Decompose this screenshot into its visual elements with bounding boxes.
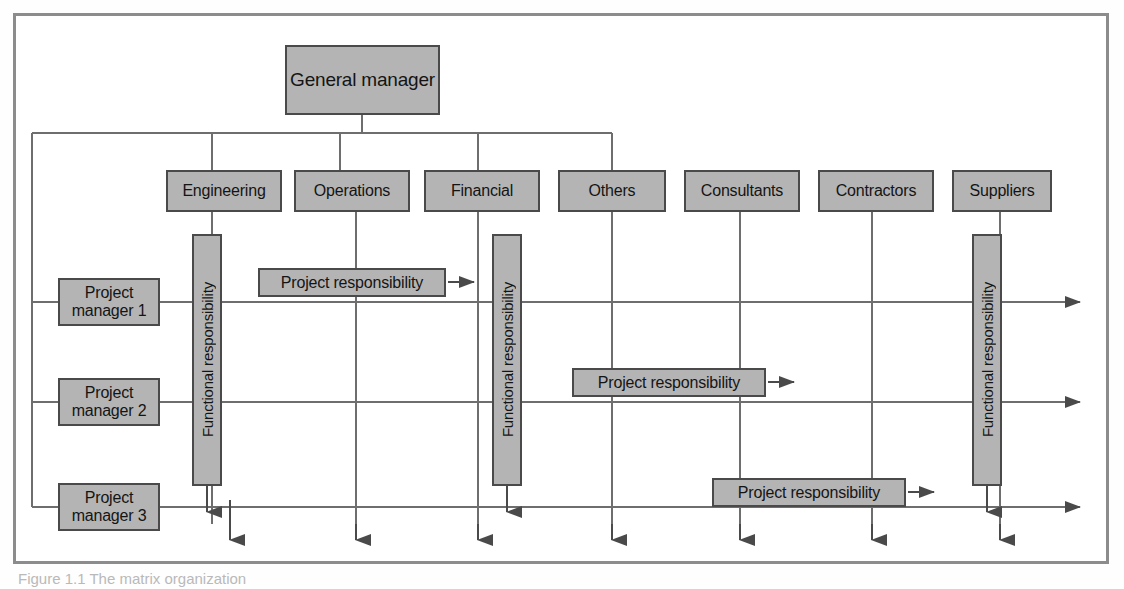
node-contractors-label: Contractors <box>836 182 917 200</box>
functional-responsibility-band-engineering[interactable]: Functional responsibility <box>192 234 222 486</box>
functional-responsibility-label-financial: Functional responsibility <box>499 282 516 437</box>
node-general-manager[interactable]: General manager <box>285 45 440 115</box>
functional-responsibility-band-financial[interactable]: Functional responsibility <box>492 234 522 486</box>
node-consultants-label: Consultants <box>701 182 783 200</box>
node-project-manager-1-line2: manager 1 <box>72 302 147 320</box>
node-contractors[interactable]: Contractors <box>818 170 934 212</box>
node-suppliers[interactable]: Suppliers <box>952 170 1052 212</box>
node-engineering[interactable]: Engineering <box>166 170 282 212</box>
node-consultants[interactable]: Consultants <box>684 170 800 212</box>
node-project-manager-3-line1: Project <box>85 489 133 507</box>
node-others[interactable]: Others <box>558 170 666 212</box>
project-responsibility-label-pm2: Project responsibility <box>598 374 740 392</box>
project-responsibility-label-pm1: Project responsibility <box>281 274 423 292</box>
figure-frame <box>13 13 1109 564</box>
node-project-manager-2-line2: manager 2 <box>72 402 147 420</box>
node-others-label: Others <box>589 182 636 200</box>
project-responsibility-band-pm3[interactable]: Project responsibility <box>712 478 906 507</box>
project-responsibility-label-pm3: Project responsibility <box>738 484 880 502</box>
functional-responsibility-label-engineering: Functional responsibility <box>199 282 216 437</box>
project-responsibility-band-pm2[interactable]: Project responsibility <box>572 368 766 397</box>
node-general-manager-label: General manager <box>290 69 435 90</box>
functional-responsibility-band-suppliers[interactable]: Functional responsibility <box>972 234 1002 486</box>
node-financial-label: Financial <box>451 182 513 200</box>
node-project-manager-3-line2: manager 3 <box>72 507 147 525</box>
node-suppliers-label: Suppliers <box>970 182 1035 200</box>
node-project-manager-2[interactable]: Project manager 2 <box>58 378 160 426</box>
functional-responsibility-label-suppliers: Functional responsibility <box>979 282 996 437</box>
node-engineering-label: Engineering <box>182 182 265 200</box>
figure-caption: Figure 1.1 The matrix organization <box>18 570 538 589</box>
node-project-manager-2-line1: Project <box>85 384 133 402</box>
node-operations-label: Operations <box>314 182 390 200</box>
node-project-manager-3[interactable]: Project manager 3 <box>58 483 160 531</box>
node-project-manager-1[interactable]: Project manager 1 <box>58 278 160 326</box>
node-project-manager-1-line1: Project <box>85 284 133 302</box>
project-responsibility-band-pm1[interactable]: Project responsibility <box>258 268 446 297</box>
node-operations[interactable]: Operations <box>294 170 410 212</box>
node-financial[interactable]: Financial <box>424 170 540 212</box>
figure-canvas: General manager Engineering Operations F… <box>0 0 1124 589</box>
